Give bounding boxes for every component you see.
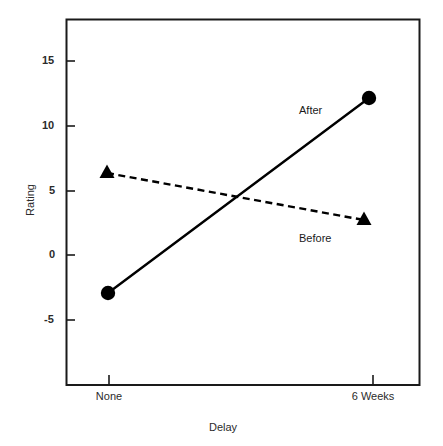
series-annotation-after: After: [299, 104, 322, 116]
series-annotation-before: Before: [299, 232, 331, 244]
plot-frame: [67, 20, 420, 386]
marker-after-6weeks: [362, 91, 376, 105]
y-tick-label-15: 15: [42, 55, 54, 66]
y-tick-label-5: 5: [49, 185, 55, 196]
y-axis-title: Rating: [24, 177, 36, 223]
y-tick-label-neg5: -5: [44, 314, 54, 325]
x-tick-label-6weeks: 6 Weeks: [338, 390, 408, 402]
y-tick-label-10: 10: [42, 120, 54, 131]
y-tick-label-0: 0: [49, 249, 55, 260]
x-tick-label-none: None: [79, 390, 139, 402]
chart-figure: 15 10 5 0 -5 Rating None 6 Weeks Delay A…: [0, 0, 443, 446]
marker-after-none: [101, 286, 115, 300]
plot-canvas: [0, 0, 443, 446]
x-axis-title: Delay: [188, 421, 258, 433]
